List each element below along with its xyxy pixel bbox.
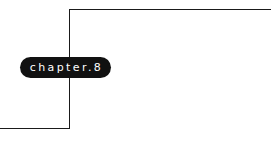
chapter-label: chapter.8: [30, 61, 103, 74]
bottom-horizontal-rule: [0, 128, 70, 129]
chapter-badge: chapter.8: [20, 57, 111, 78]
top-horizontal-rule: [69, 9, 271, 10]
